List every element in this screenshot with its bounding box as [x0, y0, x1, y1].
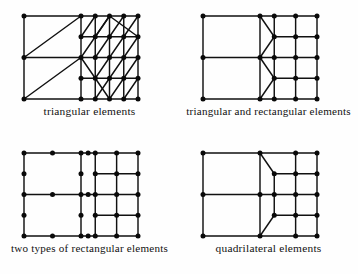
mesh-node — [136, 76, 141, 81]
panel-two-types-rectangular: two types of rectangular elements — [0, 137, 179, 274]
caption-quadrilateral: quadrilateral elements — [179, 241, 358, 255]
mesh-node — [121, 76, 126, 81]
mesh-node — [258, 14, 263, 19]
mesh-node — [50, 192, 55, 197]
mesh-node — [315, 76, 320, 81]
mesh-node — [107, 55, 112, 60]
mesh-node — [201, 55, 206, 60]
mesh-node — [293, 234, 298, 239]
mesh-node — [93, 192, 98, 197]
mesh-node — [315, 234, 320, 239]
mesh-node — [136, 55, 141, 60]
mesh-node — [136, 34, 141, 39]
mesh-node — [272, 14, 277, 19]
mesh-node — [201, 151, 206, 156]
mesh-node — [258, 151, 263, 156]
mesh-node — [315, 55, 320, 60]
mesh-node — [107, 97, 112, 102]
mesh-node — [79, 213, 84, 218]
mesh-edge-diagonal — [110, 58, 124, 79]
mesh-triangular — [0, 0, 179, 108]
mesh-node — [293, 55, 298, 60]
mesh-node — [86, 151, 91, 156]
mesh-node — [50, 151, 55, 156]
mesh-quadrilateral — [179, 137, 358, 245]
mesh-node — [136, 151, 141, 156]
mesh-node — [79, 55, 84, 60]
mesh-node — [121, 34, 126, 39]
mesh-node — [293, 97, 298, 102]
mesh-figure: triangular elements triangular and recta… — [0, 0, 358, 274]
mesh-node — [93, 213, 98, 218]
mesh-node — [201, 234, 206, 239]
mesh-node — [93, 34, 98, 39]
mesh-node — [93, 234, 98, 239]
mesh-node — [136, 97, 141, 102]
mesh-node — [315, 34, 320, 39]
mesh-node — [136, 213, 141, 218]
mesh-node — [114, 192, 119, 197]
mesh-node — [22, 171, 27, 176]
mesh-edge-diagonal — [24, 16, 81, 58]
mesh-node — [22, 234, 27, 239]
caption-triangular: triangular elements — [0, 104, 179, 118]
mesh-node — [258, 55, 263, 60]
mesh-node — [86, 192, 91, 197]
mesh-node — [315, 192, 320, 197]
mesh-node — [315, 171, 320, 176]
panel-triangular-rectangular: triangular and rectangular elements — [179, 0, 358, 137]
mesh-node — [79, 192, 84, 197]
mesh-edge-diagonal — [124, 78, 138, 99]
mesh-edge-diagonal — [124, 16, 138, 37]
mesh-node — [315, 213, 320, 218]
mesh-node — [272, 213, 277, 218]
mesh-edge-diagonal — [110, 16, 124, 37]
caption-triangular-rectangular: triangular and rectangular elements — [179, 104, 358, 118]
mesh-node — [293, 76, 298, 81]
mesh-node — [93, 14, 98, 19]
mesh-node — [79, 171, 84, 176]
mesh-triangular-rectangular — [179, 0, 358, 108]
mesh-node — [114, 213, 119, 218]
mesh-edge-diagonal — [260, 215, 274, 236]
mesh-node — [79, 76, 84, 81]
mesh-node — [22, 97, 27, 102]
mesh-node — [136, 192, 141, 197]
mesh-two-types-rectangular — [0, 137, 179, 245]
mesh-node — [121, 97, 126, 102]
mesh-edge-diagonal — [110, 78, 124, 99]
mesh-node — [136, 234, 141, 239]
mesh-node — [107, 14, 112, 19]
mesh-svg-triangular-rectangular — [179, 0, 358, 108]
mesh-node — [114, 171, 119, 176]
mesh-svg-triangular — [0, 0, 179, 108]
mesh-node — [93, 76, 98, 81]
mesh-node — [79, 14, 84, 19]
mesh-node — [315, 151, 320, 156]
mesh-node — [107, 76, 112, 81]
panel-quadrilateral: quadrilateral elements — [179, 137, 358, 274]
mesh-edge-diagonal — [260, 153, 274, 174]
mesh-node — [93, 97, 98, 102]
mesh-node — [293, 213, 298, 218]
mesh-edge-diagonal — [260, 37, 274, 58]
mesh-edge-diagonal — [95, 16, 109, 37]
mesh-node — [293, 171, 298, 176]
mesh-edge-diagonal — [260, 16, 274, 37]
mesh-node — [22, 192, 27, 197]
mesh-edge-diagonal — [95, 37, 109, 58]
mesh-node — [201, 97, 206, 102]
mesh-node — [315, 97, 320, 102]
panel-triangular: triangular elements — [0, 0, 179, 137]
mesh-edge-diagonal — [260, 78, 274, 99]
mesh-node — [293, 151, 298, 156]
mesh-node — [79, 234, 84, 239]
mesh-node — [121, 14, 126, 19]
mesh-edge-diagonal — [124, 37, 138, 58]
mesh-node — [22, 151, 27, 156]
mesh-node — [93, 55, 98, 60]
mesh-node — [93, 151, 98, 156]
mesh-node — [315, 14, 320, 19]
mesh-node — [114, 151, 119, 156]
mesh-node — [293, 14, 298, 19]
